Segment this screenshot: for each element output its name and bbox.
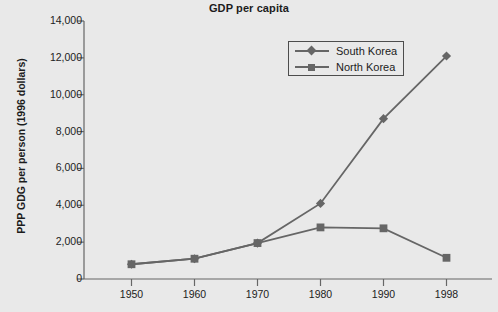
series-line-north-korea [132, 227, 447, 264]
chart-legend: South Korea North Korea [288, 41, 404, 76]
x-axis-tick-label: 1950 [102, 288, 162, 300]
x-axis-tick-label: 1998 [417, 288, 477, 300]
legend-label-north-korea: North Korea [336, 61, 395, 73]
gdp-per-capita-chart: GDP per capita PPP GDG per person (1996 … [0, 0, 498, 312]
plot-area [0, 0, 498, 312]
square-marker-icon [317, 224, 325, 232]
y-axis-tick: 2,000 [30, 236, 82, 237]
x-axis-tick-label: 1990 [354, 288, 414, 300]
square-marker-icon [443, 254, 451, 262]
legend-entry-south-korea: South Korea [289, 43, 405, 59]
legend-label-south-korea: South Korea [336, 45, 397, 57]
y-axis-tick: 12,000 [30, 52, 82, 53]
y-axis-tick-label: 4,000 [30, 199, 82, 210]
square-marker-icon [191, 255, 199, 263]
square-marker-icon [293, 60, 331, 74]
x-axis-tick-label: 1960 [165, 288, 225, 300]
y-axis-tick: 14,000 [30, 15, 82, 16]
x-axis-tick-label: 1970 [228, 288, 288, 300]
legend-entry-north-korea: North Korea [289, 59, 405, 75]
y-axis-tick: 0 [30, 273, 82, 274]
series-line-south-korea [132, 56, 447, 264]
y-axis-tick-label: 14,000 [30, 15, 82, 26]
y-axis-tick: 10,000 [30, 89, 82, 90]
y-axis-tick-label: 0 [30, 273, 82, 284]
y-axis-tick-label: 12,000 [30, 52, 82, 63]
axis-lines [77, 21, 492, 286]
square-marker-icon [254, 239, 262, 247]
data-series-layer [127, 51, 451, 268]
y-axis-tick-label: 2,000 [30, 236, 82, 247]
square-marker-icon [380, 224, 388, 232]
y-axis-tick: 6,000 [30, 162, 82, 163]
diamond-marker-icon [293, 44, 331, 58]
x-axis-tick-label: 1980 [291, 288, 351, 300]
y-axis-tick-label: 8,000 [30, 126, 82, 137]
y-axis-tick: 4,000 [30, 199, 82, 200]
square-marker-icon [128, 260, 136, 268]
y-axis-tick-label: 6,000 [30, 162, 82, 173]
y-axis-tick-label: 10,000 [30, 89, 82, 100]
y-axis-tick: 8,000 [30, 126, 82, 127]
